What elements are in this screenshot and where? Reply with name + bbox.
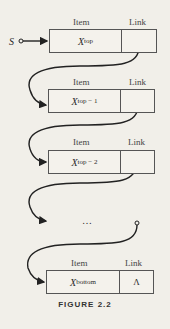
ellipsis: … <box>82 215 92 226</box>
pointer-label: S <box>9 36 14 47</box>
link-header: Link <box>129 17 146 27</box>
figure-caption: FIGURE 2.2 <box>0 300 170 309</box>
link-cell <box>121 151 154 173</box>
link-cell <box>122 30 156 52</box>
link-header: Link <box>129 77 146 87</box>
item-header: Item <box>71 258 88 268</box>
link-header: Link <box>128 137 145 147</box>
list-node: Xtop − 2 <box>48 150 155 174</box>
item-cell: Xbottom <box>47 271 120 293</box>
item-header: Item <box>73 137 90 147</box>
link-header: Link <box>125 258 142 268</box>
list-node: Xbottom Λ <box>46 270 154 294</box>
item-header: Item <box>73 17 90 27</box>
list-node: Xtop <box>49 29 157 53</box>
link-cell <box>121 90 154 112</box>
item-cell: Xtop − 1 <box>49 90 121 112</box>
item-cell: Xtop <box>50 30 122 52</box>
null-link-cell: Λ <box>120 271 153 293</box>
list-node: Xtop − 1 <box>48 89 155 113</box>
item-header: Item <box>73 77 90 87</box>
item-cell: Xtop − 2 <box>49 151 121 173</box>
